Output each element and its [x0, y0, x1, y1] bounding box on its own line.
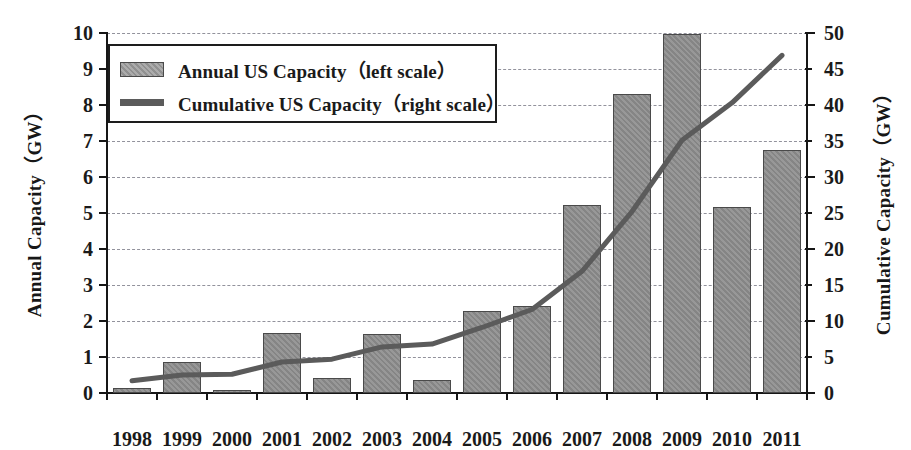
x-tick-label-2009: 2009	[654, 429, 710, 449]
y-tick-label-right: 45	[824, 59, 870, 79]
x-tick	[556, 392, 558, 400]
legend-item-cumulative: Cumulative US Capacity（right scale）	[120, 86, 485, 119]
y-tick-label-left: 7	[53, 131, 93, 151]
y-tick-label-right: 50	[824, 23, 870, 43]
legend-label-cumulative: Cumulative US Capacity（right scale）	[178, 89, 505, 116]
legend-item-annual: Annual US Capacity（left scale）	[120, 53, 485, 86]
x-tick	[606, 392, 608, 400]
y-tick-label-left: 1	[53, 347, 93, 367]
chart-legend: Annual US Capacity（left scale） Cumulativ…	[108, 44, 497, 123]
x-tick-label-2010: 2010	[704, 429, 760, 449]
line-swatch-icon	[120, 99, 164, 106]
y-tick-label-left: 2	[53, 311, 93, 331]
y-tick-label-right: 20	[824, 239, 870, 259]
y-tick-label-left: 5	[53, 203, 93, 223]
y-tick-label-right: 15	[824, 275, 870, 295]
x-tick	[756, 392, 758, 400]
x-tick	[806, 392, 808, 400]
x-tick	[706, 392, 708, 400]
x-tick-label-1998: 1998	[104, 429, 160, 449]
bar-swatch-icon	[120, 62, 164, 77]
x-tick-label-2005: 2005	[454, 429, 510, 449]
x-tick-label-2007: 2007	[554, 429, 610, 449]
x-tick	[356, 392, 358, 400]
y-tick-label-left: 9	[53, 59, 93, 79]
y-tick-label-right: 35	[824, 131, 870, 151]
y-tick-label-right: 25	[824, 203, 870, 223]
x-tick	[256, 392, 258, 400]
x-tick	[106, 392, 108, 400]
y-tick-label-right: 0	[824, 383, 870, 403]
y-tick-label-left: 4	[53, 239, 93, 259]
legend-label-annual: Annual US Capacity（left scale）	[178, 56, 456, 83]
x-tick-label-2003: 2003	[354, 429, 410, 449]
y-axis-left-title: Annual Capacity（GW）	[19, 70, 46, 350]
x-tick	[406, 392, 408, 400]
x-tick-label-2008: 2008	[604, 429, 660, 449]
y-tick-label-right: 5	[824, 347, 870, 367]
y-tick-label-right: 10	[824, 311, 870, 331]
x-tick	[506, 392, 508, 400]
x-tick-label-2002: 2002	[304, 429, 360, 449]
y-tick-label-left: 6	[53, 167, 93, 187]
y-tick-label-right: 40	[824, 95, 870, 115]
x-tick	[306, 392, 308, 400]
x-tick-label-2006: 2006	[504, 429, 560, 449]
y-tick-label-left: 0	[53, 383, 93, 403]
x-tick-label-2001: 2001	[254, 429, 310, 449]
x-tick	[656, 392, 658, 400]
y-tick-label-left: 3	[53, 275, 93, 295]
x-tick-label-2004: 2004	[404, 429, 460, 449]
x-tick	[206, 392, 208, 400]
y-tick-label-left: 10	[53, 23, 93, 43]
x-tick	[156, 392, 158, 400]
x-tick	[456, 392, 458, 400]
x-tick-label-1999: 1999	[154, 429, 210, 449]
x-tick-label-2011: 2011	[754, 429, 810, 449]
y-axis-right-title: Cumulative Capacity（GW）	[868, 70, 895, 350]
x-tick-label-2000: 2000	[204, 429, 260, 449]
y-tick-label-right: 30	[824, 167, 870, 187]
y-tick-label-left: 8	[53, 95, 93, 115]
